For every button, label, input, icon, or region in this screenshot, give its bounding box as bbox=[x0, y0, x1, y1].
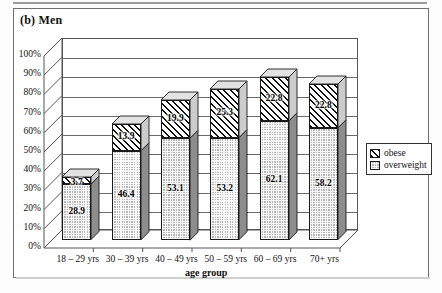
data-label-overweight: 58.2 bbox=[315, 178, 332, 188]
legend-label-obese: obese bbox=[384, 148, 406, 159]
y-axis-tick-label: 60% bbox=[0, 126, 41, 136]
y-axis-tick-label: 50% bbox=[0, 145, 41, 155]
data-label-obese: 13.9 bbox=[118, 131, 135, 141]
y-axis-tick-label: 90% bbox=[0, 68, 41, 78]
x-axis-tick-label: 70+ yrs bbox=[295, 254, 353, 264]
y-axis-tick-label: 0% bbox=[0, 241, 41, 251]
y-axis-tick-label: 30% bbox=[0, 183, 41, 193]
chart-legend: obese overweight bbox=[366, 143, 432, 175]
legend-item-obese: obese bbox=[370, 147, 427, 159]
bar-column: 25.353.2 bbox=[210, 89, 239, 240]
x-axis-title: age group bbox=[185, 267, 227, 278]
y-axis-tick-label: 100% bbox=[0, 49, 41, 59]
data-label-obese: 19.9 bbox=[167, 113, 184, 123]
bar-column: 22.858.2 bbox=[309, 84, 338, 240]
data-label-overweight: 28.9 bbox=[68, 206, 85, 216]
y-axis-tick-label: 40% bbox=[0, 164, 41, 174]
data-label-obese: 3.7 bbox=[71, 177, 83, 187]
legend-swatch-obese-icon bbox=[370, 149, 380, 158]
data-label-obese: 25.3 bbox=[216, 107, 233, 117]
data-label-obese: 22.8 bbox=[266, 93, 283, 103]
y-axis-tick-label: 20% bbox=[0, 203, 41, 213]
bar-column: 3.728.9 bbox=[62, 177, 91, 240]
bar-column: 13.946.4 bbox=[112, 124, 141, 240]
data-label-obese: 22.8 bbox=[315, 100, 332, 110]
legend-label-overweight: overweight bbox=[384, 160, 427, 171]
bar-column: 19.953.1 bbox=[161, 100, 190, 240]
y-axis-tick-label: 80% bbox=[0, 87, 41, 97]
bar-column: 22.862.1 bbox=[260, 77, 289, 240]
data-label-overweight: 53.2 bbox=[216, 183, 233, 193]
chart-screenshot: (b) Men 100%90%80%70%60%50%40%30%20%10%0… bbox=[0, 0, 442, 293]
y-axis-tick-label: 70% bbox=[0, 107, 41, 117]
legend-swatch-overweight-icon bbox=[370, 161, 380, 170]
data-label-overweight: 46.4 bbox=[118, 189, 135, 199]
data-label-overweight: 62.1 bbox=[266, 174, 283, 184]
y-axis-tick-label: 10% bbox=[0, 222, 41, 232]
legend-item-overweight: overweight bbox=[370, 159, 427, 171]
data-label-overweight: 53.1 bbox=[167, 183, 184, 193]
